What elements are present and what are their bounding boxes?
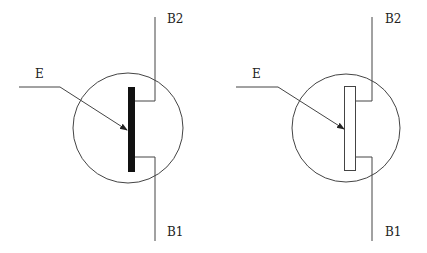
emitter-label: E (252, 67, 261, 81)
base2-lead (135, 17, 155, 101)
base2-lead (356, 17, 372, 101)
base1-lead (356, 157, 372, 241)
base-bar-filled (128, 87, 135, 172)
base1-lead (135, 157, 155, 241)
base1-label: B1 (385, 225, 401, 239)
base-bar-outline (345, 87, 356, 171)
base2-label: B2 (167, 12, 183, 26)
ujt-symbol-hollow: E B2 B1 (236, 12, 401, 241)
ujt-symbol-filled: E B2 B1 (19, 12, 183, 241)
emitter-label: E (35, 67, 44, 81)
emitter-lead-arrow (236, 87, 344, 129)
diagram-canvas: E B2 B1 E B2 B1 (0, 0, 427, 253)
base1-label: B1 (167, 225, 183, 239)
base2-label: B2 (385, 12, 401, 26)
